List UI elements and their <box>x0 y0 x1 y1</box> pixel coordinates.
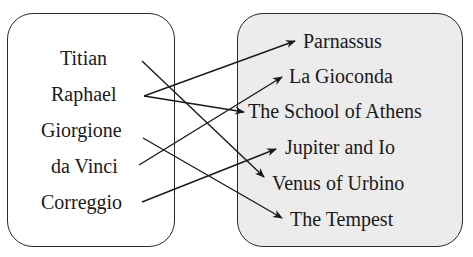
mapping-arrows <box>0 0 473 257</box>
arrow-titian-venus <box>142 61 264 177</box>
arrow-correggio-jupiter <box>142 149 276 202</box>
arrow-raphael-parnassus <box>144 41 295 96</box>
